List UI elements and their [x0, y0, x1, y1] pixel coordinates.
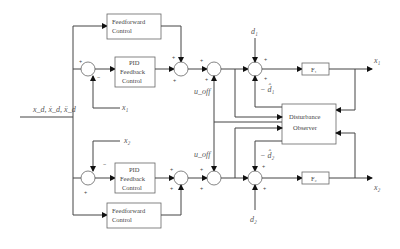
svg-text:+: + — [200, 185, 203, 191]
summing-junction-bottom-1 — [81, 171, 95, 185]
svg-text:Control: Control — [122, 77, 142, 84]
d1-hat-label: − d̂₁ — [260, 83, 274, 94]
svg-text:Feedforward: Feedforward — [112, 207, 146, 214]
u-off-top-label: u_off — [194, 87, 212, 96]
svg-text:Feedback: Feedback — [120, 175, 146, 182]
input-signal: x_d, ẋ_d, ẍ_d — [20, 105, 77, 117]
pid-feedback-control-bottom: PID Feedback Control — [115, 163, 155, 193]
summing-junction-bottom-3 — [207, 171, 221, 185]
x2-output-label: x₂ — [373, 183, 381, 192]
svg-text:Control: Control — [112, 216, 132, 223]
svg-text:+: + — [172, 54, 175, 60]
svg-text:+: + — [264, 56, 267, 62]
svg-text:Control: Control — [122, 184, 142, 191]
svg-text:+: + — [84, 189, 87, 195]
svg-text:+: + — [79, 58, 82, 64]
svg-text:−: − — [103, 161, 106, 167]
disturbance-observer: Disturbance Observer — [282, 104, 336, 144]
svg-text:+: + — [262, 163, 265, 169]
d2-label: d₂ — [250, 215, 257, 224]
svg-text:+: + — [173, 77, 176, 83]
input-label: x_d, ẋ_d, ẍ_d — [32, 105, 77, 114]
svg-text:+: + — [200, 166, 203, 172]
u-off-bottom-label: u_off — [194, 150, 212, 159]
x1-output-label: x₁ — [373, 56, 381, 65]
svg-text:Feedforward: Feedforward — [112, 18, 146, 25]
d1-label: d₁ — [251, 27, 258, 36]
svg-text:+: + — [205, 76, 208, 82]
control-block-diagram: x_d, ẋ_d, ẍ_d Feedforward Control + − x₁… — [0, 0, 400, 249]
svg-text:+: + — [264, 75, 267, 81]
summing-junction-top-2 — [174, 62, 188, 76]
svg-text:F₁: F₁ — [311, 66, 317, 73]
feedforward-control-top: Feedforward Control — [107, 14, 161, 39]
summing-junction-bottom-4 — [248, 171, 262, 185]
pid-feedback-control-top: PID Feedback Control — [115, 57, 155, 87]
summing-junction-top-1 — [81, 62, 95, 76]
feedforward-control-bottom: Feedforward Control — [107, 203, 161, 228]
summing-junction-top-4 — [248, 62, 262, 76]
x2-feedback-label: x₂ — [123, 136, 131, 145]
svg-text:+: + — [170, 185, 173, 191]
summing-junction-bottom-2 — [174, 171, 188, 185]
svg-text:−: − — [97, 74, 100, 80]
svg-text:+: + — [263, 185, 266, 191]
svg-text:PID: PID — [129, 166, 140, 173]
plant-f2: F₂ — [302, 172, 329, 184]
plant-f1: F₁ — [302, 63, 329, 75]
d2-hat-label: − d̂₂ — [260, 149, 274, 160]
svg-text:F₂: F₂ — [311, 175, 317, 182]
summing-junction-top-3 — [207, 62, 221, 76]
svg-text:+: + — [170, 166, 173, 172]
svg-text:Control: Control — [112, 27, 132, 34]
svg-text:Observer: Observer — [293, 124, 318, 131]
x1-feedback-label: x₁ — [121, 103, 129, 112]
svg-text:Feedback: Feedback — [120, 68, 146, 75]
svg-text:Disturbance: Disturbance — [289, 113, 321, 120]
svg-text:+: + — [200, 57, 203, 63]
svg-text:PID: PID — [129, 59, 140, 66]
